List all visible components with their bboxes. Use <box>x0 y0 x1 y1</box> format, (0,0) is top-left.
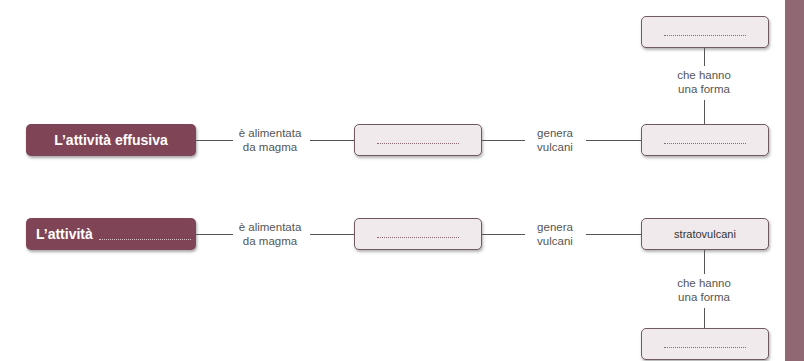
link-text-line: genera <box>524 126 586 140</box>
link-text-line: genera <box>524 220 586 234</box>
concept-label: L’attività <box>36 226 93 242</box>
link-text-line: da magma <box>228 234 312 248</box>
blank-dots <box>99 239 191 240</box>
blank-box-shape-2[interactable] <box>641 328 769 360</box>
connector-line <box>704 250 705 274</box>
link-text-line: che hanno <box>664 68 744 82</box>
connector-line <box>482 234 525 235</box>
connector-line <box>310 234 354 235</box>
link-label-generates: genera vulcani <box>524 126 586 154</box>
link-text-line: una forma <box>664 290 744 304</box>
box-label: stratovulcani <box>674 228 736 240</box>
link-label-generates: genera vulcani <box>524 220 586 248</box>
blank-dots <box>664 143 746 144</box>
link-label-fed-by: è alimentata da magma <box>228 126 312 154</box>
blank-dots <box>377 237 459 238</box>
link-label-have-shape: che hanno una forma <box>664 68 744 96</box>
link-label-have-shape: che hanno una forma <box>664 276 744 304</box>
blank-box-volcano-type-1[interactable] <box>641 124 769 156</box>
connector-line <box>310 140 354 141</box>
concept-label: L’attività effusiva <box>54 132 168 148</box>
side-bar <box>785 0 804 361</box>
concept-effusive-activity: L’attività effusiva <box>26 124 196 156</box>
blank-dots <box>377 143 459 144</box>
box-stratovolcanoes: stratovulcani <box>641 218 769 250</box>
blank-dots <box>664 347 746 348</box>
blank-dots <box>664 35 746 36</box>
link-text-line: una forma <box>664 82 744 96</box>
connector-line <box>704 48 705 66</box>
link-text-line: è alimentata <box>228 126 312 140</box>
blank-box-magma-type-1[interactable] <box>354 124 482 156</box>
link-text-line: che hanno <box>664 276 744 290</box>
link-text-line: vulcani <box>524 234 586 248</box>
connector-line <box>704 308 705 328</box>
link-text-line: vulcani <box>524 140 586 154</box>
blank-box-magma-type-2[interactable] <box>354 218 482 250</box>
link-label-fed-by: è alimentata da magma <box>228 220 312 248</box>
concept-activity-blank[interactable]: L’attività <box>26 218 196 250</box>
connector-line <box>586 234 641 235</box>
link-text-line: da magma <box>228 140 312 154</box>
link-text-line: è alimentata <box>228 220 312 234</box>
blank-box-shape-1[interactable] <box>641 16 769 48</box>
connector-line <box>586 140 641 141</box>
connector-line <box>482 140 525 141</box>
connector-line <box>704 100 705 124</box>
